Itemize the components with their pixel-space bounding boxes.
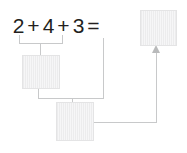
bracket-2-4-right-stub <box>62 35 63 43</box>
equation-expression: 2+4+3= <box>12 14 102 38</box>
bracket-2-4-left-stub <box>19 35 20 43</box>
answer-box[interactable] <box>140 10 177 46</box>
arrow-up-icon <box>152 45 160 53</box>
equation-addend-2: 4 <box>42 14 55 38</box>
bracket-2-4-bar <box>19 43 63 44</box>
equation-equals-sign: = <box>85 14 102 38</box>
bracket-2-4-drop-to-box <box>40 43 41 55</box>
partial-sum-box-1[interactable] <box>22 55 60 89</box>
addition-decomposition-diagram: 2+4+3= <box>0 0 187 153</box>
arrow-horizontal-segment <box>94 122 157 123</box>
arrow-vertical-segment <box>156 52 157 123</box>
bracket-3-right-stub <box>103 38 104 99</box>
equation-plus-1: + <box>25 14 42 38</box>
bracket-partial1-3-bar <box>38 98 104 99</box>
equation-plus-2: + <box>55 14 72 38</box>
partial-sum-box-2[interactable] <box>56 102 94 141</box>
equation-addend-3: 3 <box>72 14 85 38</box>
